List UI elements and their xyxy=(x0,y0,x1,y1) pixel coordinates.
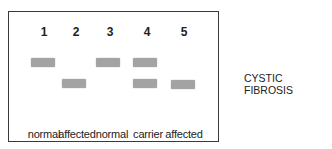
band-lane1-upper xyxy=(31,58,55,67)
lane-number-2: 2 xyxy=(66,25,86,39)
lane-number-1: 1 xyxy=(34,25,54,39)
band-lane3-upper xyxy=(96,58,120,67)
band-lane5-lower xyxy=(171,80,195,89)
disease-title: CYSTIC FIBROSIS xyxy=(244,72,332,96)
band-lane4-upper xyxy=(133,58,157,67)
lane-number-4: 4 xyxy=(137,25,157,39)
lane-label-5: affected xyxy=(159,128,209,140)
band-lane4-lower xyxy=(133,79,157,88)
lane-number-3: 3 xyxy=(100,25,120,39)
lane-number-5: 5 xyxy=(174,25,194,39)
gel-diagram: 1 2 3 4 5 normal affected normal carrier… xyxy=(8,11,219,142)
band-lane2-lower xyxy=(62,79,86,88)
